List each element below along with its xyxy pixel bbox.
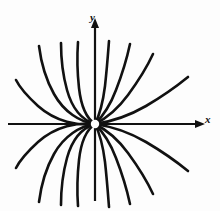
y-axis-label: y <box>90 12 95 23</box>
origin-hole-icon <box>91 120 99 128</box>
math-figure: x y <box>0 0 220 211</box>
curve-family-plot <box>0 0 220 211</box>
x-axis-label: x <box>205 114 211 125</box>
